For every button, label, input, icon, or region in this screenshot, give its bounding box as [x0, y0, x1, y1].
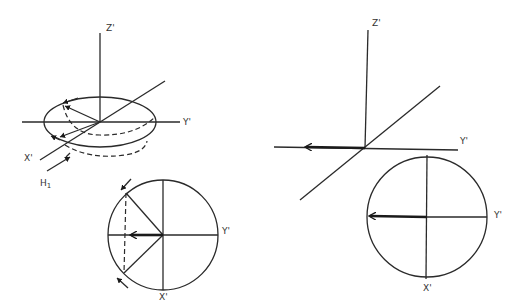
x-axis [40, 81, 165, 160]
left-3d-panel: Z' Y' X' H1 [22, 23, 191, 190]
rotation-arrow-bottom [117, 278, 128, 288]
x-axis [300, 86, 440, 200]
magnetization-vector-upper [65, 106, 100, 122]
y-axis [274, 147, 458, 150]
circle-y-label: Y' [221, 226, 230, 236]
vector-upper [126, 193, 163, 235]
magnetization-vector [370, 216, 427, 217]
net-magnetization-vector [306, 147, 365, 148]
right-circle-panel: Y' X' [367, 155, 502, 293]
h1-subscript: 1 [47, 182, 51, 190]
z-axis [365, 30, 368, 148]
h1-field-arrow [47, 157, 70, 171]
right-3d-panel: Z' Y' [274, 18, 468, 200]
h1-label: H1 [40, 178, 51, 190]
right-z-label: Z' [372, 18, 381, 28]
dashed-chord [124, 193, 126, 273]
figure-canvas: Z' Y' X' H1 Y' X' Z' Y' Y' X' [0, 0, 518, 308]
left-circle-panel: Y' X' [108, 179, 230, 302]
rotation-arrow-top [63, 98, 78, 103]
left-x-label: X' [24, 153, 33, 163]
rotation-arrow-top [121, 179, 131, 190]
left-y-label: Y' [182, 117, 191, 127]
rotation-arrow-bottom [66, 153, 70, 157]
left-z-label: Z' [106, 23, 115, 33]
right-circle-y-label: Y' [493, 210, 502, 220]
right-y-label: Y' [459, 136, 468, 146]
vector-lower [124, 235, 163, 273]
h1-letter: H [40, 178, 47, 188]
dashed-path-outer [65, 141, 147, 156]
circle-x-label: X' [159, 292, 168, 302]
right-circle-x-label: X' [423, 283, 432, 293]
